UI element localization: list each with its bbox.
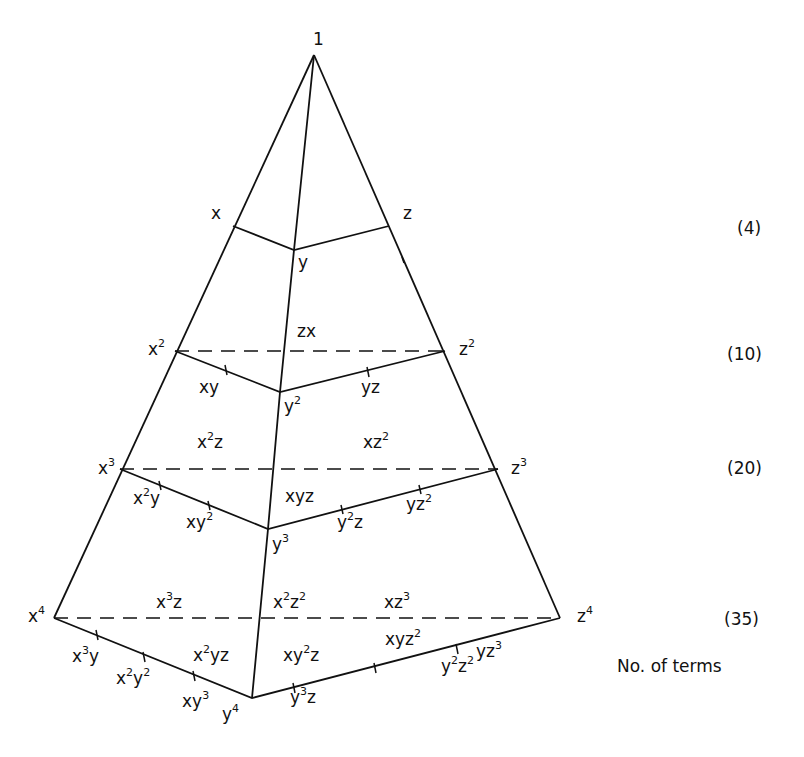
term-xyz2: xyz2: [385, 627, 421, 649]
corner-y2: y2: [284, 394, 301, 416]
level-1-triangle: [233, 226, 404, 263]
term-x2z: x2z: [197, 430, 223, 452]
corner-x: x: [211, 203, 221, 223]
term-x3y: x3y: [72, 644, 99, 666]
term-x2yz: x2yz: [193, 643, 229, 665]
term-y2z2: y2z2: [441, 654, 474, 676]
term-yz2: yz2: [406, 492, 432, 514]
term-xz3: xz3: [384, 590, 410, 612]
corner-x3: x3: [98, 456, 115, 478]
corner-y: y: [298, 252, 308, 272]
pyramid-diagram: 1 x y z x2 y2 z2 zx xy yz x3 y3 z3 x2z x…: [0, 0, 804, 757]
term-y3z: y3z: [290, 685, 316, 707]
term-xy2: xy2: [186, 510, 213, 532]
corner-y4: y4: [222, 702, 239, 724]
pyramid-edges: [54, 55, 560, 698]
term-x2y2: x2y2: [116, 666, 150, 688]
corner-x2: x2: [148, 337, 165, 359]
count-degree-1: (4): [737, 218, 761, 238]
term-y2z: y2z: [337, 510, 363, 532]
corner-x4: x4: [28, 604, 45, 626]
apex-label: 1: [313, 29, 324, 49]
term-xy2z: xy2z: [283, 643, 319, 665]
corner-z2: z2: [459, 337, 475, 359]
corner-z4: z4: [577, 604, 593, 626]
term-yz: yz: [361, 377, 380, 397]
term-xy3: xy3: [182, 689, 209, 711]
term-zx: zx: [297, 321, 316, 341]
term-x2y: x2y: [133, 486, 160, 508]
term-yz3: yz3: [476, 639, 502, 661]
term-xy: xy: [199, 377, 219, 397]
term-xyz: xyz: [285, 486, 314, 506]
footer-label: No. of terms: [617, 656, 722, 676]
term-x2z2: x2z2: [273, 590, 306, 612]
count-degree-4: (35): [724, 609, 759, 629]
corner-z3: z3: [511, 456, 527, 478]
count-degree-3: (20): [727, 458, 762, 478]
count-degree-2: (10): [727, 344, 762, 364]
corner-z: z: [403, 203, 412, 223]
edge-z: [314, 55, 560, 618]
corner-y3: y3: [272, 532, 289, 554]
term-x3z: x3z: [156, 590, 182, 612]
term-xz2: xz2: [363, 430, 389, 452]
